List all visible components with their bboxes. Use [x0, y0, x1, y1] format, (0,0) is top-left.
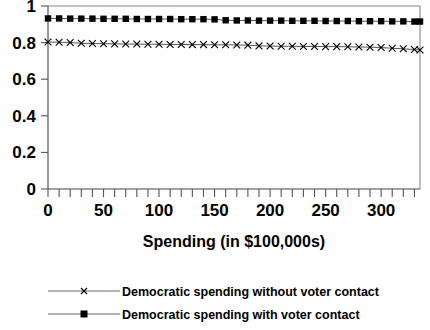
x-tick-label: 50 [94, 201, 113, 220]
square-marker [111, 16, 117, 22]
square-marker [389, 18, 395, 24]
square-marker [145, 16, 151, 22]
square-marker [134, 16, 140, 22]
y-axis-tick-labels: 00.20.40.60.81 [12, 0, 36, 199]
square-marker [300, 18, 306, 24]
square-marker [200, 16, 206, 22]
x-tick-label: 200 [256, 201, 284, 220]
square-marker [56, 15, 62, 21]
square-marker [222, 17, 228, 23]
legend-label-2: Democratic spending with voter contact [122, 308, 360, 322]
series-2 [45, 15, 423, 25]
y-tick-label: 0.2 [12, 143, 36, 162]
square-marker [234, 17, 240, 23]
square-marker [334, 18, 340, 24]
square-marker [211, 16, 217, 22]
plot-frame [48, 6, 420, 189]
square-marker [411, 18, 417, 24]
square-marker [156, 16, 162, 22]
square-marker [378, 18, 384, 24]
square-marker [267, 17, 273, 23]
x-axis-title: Spending (in $100,000s) [143, 233, 325, 250]
legend-entry-with-voter-contact: Democratic spending with voter contact [48, 308, 360, 322]
square-marker [322, 18, 328, 24]
square-marker [167, 16, 173, 22]
y-tick-label: 1 [27, 0, 36, 16]
square-marker [356, 18, 362, 24]
x-tick-label: 100 [145, 201, 173, 220]
x-axis-ticks [48, 189, 414, 197]
square-marker [100, 16, 106, 22]
square-marker [400, 18, 406, 24]
square-marker [189, 16, 195, 22]
square-marker [311, 18, 317, 24]
x-tick-label: 150 [200, 201, 228, 220]
square-marker [417, 18, 423, 24]
y-tick-label: 0.8 [12, 34, 36, 53]
square-marker [78, 15, 84, 21]
y-axis-ticks [41, 6, 48, 189]
chart-legend: Democratic spending without voter contac… [48, 285, 380, 322]
data-series-layer [45, 15, 424, 53]
legend-label-1: Democratic spending without voter contac… [122, 285, 380, 299]
square-marker [345, 18, 351, 24]
x-axis-tick-labels: 050100150200250300 [43, 201, 395, 220]
square-marker [67, 15, 73, 21]
x-tick-label: 250 [311, 201, 339, 220]
chart-canvas: 00.20.40.60.81 050100150200250300 Spendi… [0, 0, 430, 330]
x-tick-label: 0 [43, 201, 52, 220]
legend-entry-without-voter-contact: Democratic spending without voter contac… [48, 285, 380, 299]
square-marker [81, 311, 88, 318]
square-marker [367, 18, 373, 24]
square-marker [289, 18, 295, 24]
square-marker [89, 15, 95, 21]
chart-figure: 00.20.40.60.81 050100150200250300 Spendi… [0, 0, 430, 330]
series-1 [45, 39, 424, 54]
x-tick-label: 300 [367, 201, 395, 220]
square-marker [123, 16, 129, 22]
square-marker [45, 15, 51, 21]
y-tick-label: 0.6 [12, 70, 36, 89]
y-tick-label: 0.4 [12, 107, 36, 126]
square-marker [278, 17, 284, 23]
square-marker [245, 17, 251, 23]
square-marker [256, 17, 262, 23]
square-marker [178, 16, 184, 22]
y-tick-label: 0 [27, 180, 36, 199]
